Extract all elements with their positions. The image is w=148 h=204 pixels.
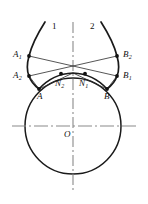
label-b1-sub: 1 bbox=[129, 75, 132, 81]
point-marker-a2 bbox=[27, 74, 31, 78]
label-a1-sub: 1 bbox=[19, 54, 22, 60]
point-marker-b1 bbox=[115, 74, 119, 78]
label-center-o: O bbox=[64, 130, 71, 139]
label-a2-sub: 2 bbox=[19, 75, 22, 81]
label-point-a: A bbox=[37, 92, 43, 101]
point-marker-n1 bbox=[83, 72, 87, 76]
figure-canvas bbox=[0, 0, 148, 204]
label-point-a1: A1 bbox=[13, 50, 22, 59]
label-curve-2: 2 bbox=[90, 22, 95, 31]
geometry-figure: 1 2 A1 A2 A B2 B1 B N2 N1 O bbox=[0, 0, 148, 204]
label-point-a2: A2 bbox=[13, 71, 22, 80]
label-b2-base: B bbox=[123, 49, 129, 59]
label-a1-base: A bbox=[13, 49, 19, 59]
label-point-b2: B2 bbox=[123, 50, 132, 59]
label-point-n1: N1 bbox=[79, 79, 88, 88]
chord-a2-a bbox=[29, 76, 39, 89]
label-b1-base: B bbox=[123, 70, 129, 80]
label-point-n2: N2 bbox=[55, 79, 64, 88]
label-n1-sub: 1 bbox=[85, 83, 88, 89]
label-b2-sub: 2 bbox=[129, 54, 132, 60]
chord-b1-b bbox=[107, 76, 117, 89]
label-point-b1: B1 bbox=[123, 71, 132, 80]
label-point-b: B bbox=[104, 92, 110, 101]
label-curve-1: 1 bbox=[52, 22, 57, 31]
label-n2-sub: 2 bbox=[61, 83, 64, 89]
point-marker-n2 bbox=[59, 72, 63, 76]
point-marker-a1 bbox=[27, 54, 31, 58]
point-marker-b2 bbox=[115, 54, 119, 58]
label-a2-base: A bbox=[13, 70, 19, 80]
